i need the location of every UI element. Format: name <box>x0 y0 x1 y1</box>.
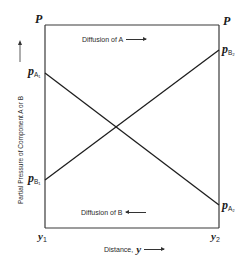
pa2-subscript: A₂ <box>228 205 235 212</box>
y-axis-label-text: Partial Pressure of Component A or B <box>17 96 24 204</box>
diffusion-diagram: P P pA₁ pB₁ pB₂ pA₂ y1 y2 Diffusion of A… <box>0 0 248 268</box>
pb2-subscript: B₂ <box>228 49 235 56</box>
y1-subscript: 1 <box>43 236 47 243</box>
pb1-subscript: B₁ <box>34 178 41 185</box>
arrow-right-icon <box>144 249 164 250</box>
arrow-left-icon <box>126 212 146 213</box>
total-pressure-label-right: P <box>223 15 230 27</box>
y1-tick-label: y1 <box>38 231 47 243</box>
pa1-label: pA₁ <box>28 65 41 79</box>
total-pressure-label-left: P <box>35 13 42 25</box>
diffusion-a-text: Diffusion of A <box>82 36 123 43</box>
y2-subscript: 2 <box>216 236 220 243</box>
diffusion-a-annotation: Diffusion of A <box>82 36 146 43</box>
y-axis-label: Partial Pressure of Component A or B <box>17 96 24 204</box>
y2-tick-label: y2 <box>211 231 220 243</box>
pb2-label: pB₂ <box>222 43 235 57</box>
x-axis-label: Distance, y <box>104 244 164 255</box>
pa2-label: pA₂ <box>222 199 235 213</box>
component-a-line <box>45 73 219 205</box>
x-axis-variable: y <box>136 244 141 255</box>
arrow-right-icon <box>126 39 146 40</box>
pa1-subscript: A₁ <box>34 71 41 78</box>
diffusion-b-annotation: Diffusion of B <box>81 209 146 216</box>
component-b-line <box>45 50 219 180</box>
x-axis-label-text: Distance, <box>104 246 133 253</box>
pb1-label: pB₁ <box>28 172 41 186</box>
diffusion-b-text: Diffusion of B <box>81 209 123 216</box>
y-axis-arrow-head <box>18 40 22 45</box>
